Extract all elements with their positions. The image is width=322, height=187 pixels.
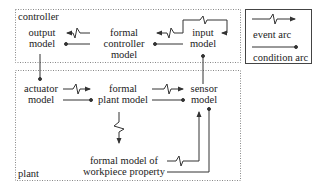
input-model-node: input model [188, 27, 218, 49]
sensor-model-line1: sensor [187, 83, 221, 94]
workpiece-property-node: formal model of workpiece property [80, 155, 168, 177]
formal-plant-line1: formal [94, 83, 152, 94]
sensor-model-node: sensor model [187, 83, 221, 105]
event-arc-workpiece-to-sensor [167, 112, 199, 166]
plant-region-label: plant [18, 168, 39, 179]
output-model-node: output model [24, 27, 60, 49]
output-model-line1: output [24, 27, 60, 38]
event-arc-controller-to-output [67, 28, 90, 38]
controller-region-label: controller [18, 11, 59, 22]
sensor-model-line2: model [187, 94, 221, 105]
event-arc-plant-to-workpiece [114, 112, 124, 143]
actuator-model-line2: model [20, 94, 62, 105]
legend-condition-arc-label: condition arc [253, 52, 308, 63]
legend-event-arc-sample [252, 14, 295, 24]
condition-arc-workpiece-to-sensor [167, 110, 209, 172]
input-model-line2: model [188, 38, 218, 49]
event-arc-plant-to-sensor [152, 84, 183, 94]
formal-plant-model-node: formal plant model [94, 83, 152, 105]
input-model-line1: input [188, 27, 218, 38]
formal-controller-line3: model [94, 49, 154, 60]
formal-plant-line2: plant model [94, 94, 152, 105]
output-model-line2: model [24, 38, 60, 49]
formal-controller-line1: formal [94, 27, 154, 38]
workpiece-line2: workpiece property [80, 166, 168, 177]
formal-controller-line2: controller [94, 38, 154, 49]
actuator-model-line1: actuator [20, 83, 62, 94]
legend-event-arc-label: event arc [253, 29, 291, 40]
workpiece-line1: formal model of [80, 155, 168, 166]
event-arc-input-to-controller [157, 28, 183, 38]
formal-controller-model-node: formal controller model [94, 27, 154, 60]
event-arc-actuator-to-plant [63, 84, 90, 94]
actuator-model-node: actuator model [20, 83, 62, 105]
